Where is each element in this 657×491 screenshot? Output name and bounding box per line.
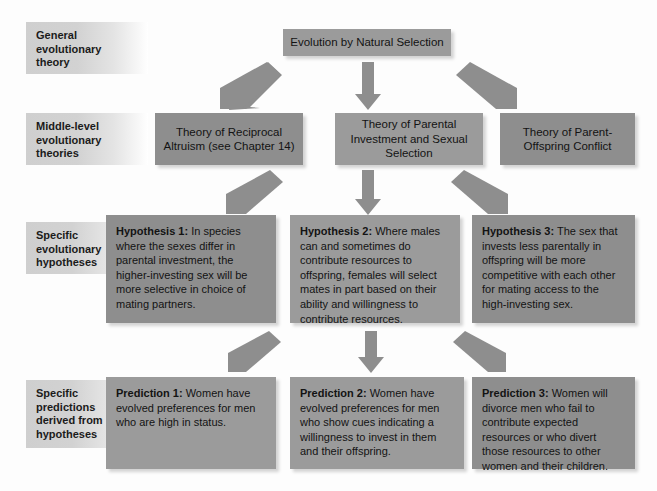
box-prediction-1[interactable]: Prediction 1: Women have evolved prefere… (106, 377, 276, 469)
row-label-text: General evolutionary theory (36, 29, 101, 68)
row-label-text: Specific evolutionary hypotheses (36, 229, 101, 268)
box-lead: Prediction 1: (116, 387, 183, 399)
box-lead: Prediction 2: (300, 387, 367, 399)
box-evolution-by-natural-selection[interactable]: Evolution by Natural Selection (283, 29, 451, 56)
box-hypothesis-1[interactable]: Hypothesis 1: In species where the sexes… (106, 215, 276, 323)
row-label-text: Middle-level evolutionary theories (36, 120, 101, 159)
box-label: Theory of Parent-Offspring Conflict (506, 125, 629, 154)
box-body: In species where the sexes differ in par… (116, 225, 247, 310)
box-label: Evolution by Natural Selection (290, 35, 443, 50)
box-theory-of-parental-investment[interactable]: Theory of Parental Investment and Sexual… (335, 113, 483, 165)
box-label: Theory of Parental Investment and Sexual… (341, 117, 477, 161)
box-body: Women will divorce men who fail to contr… (482, 387, 608, 472)
arrow-hypothesis-to-prediction-2 (358, 331, 384, 373)
box-lead: Hypothesis 1: (116, 225, 188, 237)
row-label-general-evolutionary-theory: General evolutionary theory (26, 22, 148, 74)
box-lead: Hypothesis 3: (482, 225, 554, 237)
box-hypothesis-3[interactable]: Hypothesis 3: The sex that invests less … (472, 215, 635, 323)
box-label: Theory of Reciprocal Altruism (see Chapt… (161, 125, 297, 154)
arrow-theory-to-hypothesis-1 (222, 170, 284, 215)
arrow-hypothesis-to-prediction-1 (224, 331, 282, 373)
row-label-middle-level-evolutionary-theories: Middle-level evolutionary theories (26, 113, 148, 165)
evolutionary-theory-diagram: General evolutionary theory Middle-level… (0, 0, 657, 491)
arrow-hypothesis-to-prediction-3 (452, 331, 510, 373)
box-prediction-2[interactable]: Prediction 2: Women have evolved prefere… (290, 377, 464, 469)
box-lead: Hypothesis 2: (300, 225, 372, 237)
box-body: The sex that invests less parentally in … (482, 225, 618, 310)
arrow-natural-selection-to-reciprocal-altruism (216, 62, 282, 110)
arrow-theory-to-hypothesis-2 (355, 170, 381, 215)
row-label-text: Specific predictions derived from hypoth… (36, 387, 103, 440)
box-theory-of-reciprocal-altruism[interactable]: Theory of Reciprocal Altruism (see Chapt… (155, 113, 303, 165)
arrow-theory-to-hypothesis-3 (450, 170, 512, 215)
box-lead: Prediction 3: (482, 387, 549, 399)
box-body: Where males can and sometimes do contrib… (300, 225, 440, 325)
box-hypothesis-2[interactable]: Hypothesis 2: Where males can and someti… (290, 215, 460, 323)
box-prediction-3[interactable]: Prediction 3: Women will divorce men who… (472, 377, 635, 469)
arrow-natural-selection-to-parent-offspring (455, 62, 521, 110)
box-theory-of-parent-offspring-conflict[interactable]: Theory of Parent-Offspring Conflict (500, 113, 635, 165)
arrow-natural-selection-to-parental-investment (355, 62, 381, 110)
